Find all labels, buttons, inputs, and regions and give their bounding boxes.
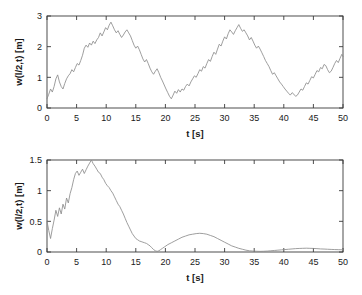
bottom-plot-panel: 05101520253035404550 00.511.5 t [s] w(l/… xyxy=(0,147,362,295)
top-plot-x-axis-label: t [s] xyxy=(186,128,203,139)
x-tick-label: 0 xyxy=(44,113,49,123)
bottom-plot-y-axis-label: w(l/2,t) [m] xyxy=(13,182,24,231)
y-tick-label: 1.5 xyxy=(29,155,42,165)
x-tick-label: 0 xyxy=(44,257,49,267)
y-tick-label: 0.5 xyxy=(29,217,42,227)
y-tick-label: 0 xyxy=(37,103,42,113)
x-tick-label: 40 xyxy=(279,113,289,123)
top-plot-panel: 05101520253035404550 0123 t [s] w(l/2,t)… xyxy=(0,0,362,148)
x-tick-label: 30 xyxy=(220,113,230,123)
y-tick-label: 3 xyxy=(37,11,42,21)
x-tick-label: 10 xyxy=(101,257,111,267)
x-tick-label: 40 xyxy=(279,257,289,267)
x-tick-label: 15 xyxy=(131,113,141,123)
x-tick-label: 35 xyxy=(249,257,259,267)
y-tick-label: 2 xyxy=(37,42,42,52)
bottom-plot-x-axis-label: t [s] xyxy=(186,272,203,283)
x-tick-label: 5 xyxy=(74,257,79,267)
x-tick-label: 15 xyxy=(131,257,141,267)
top-plot-y-axis-label: w(l/2,t) [m] xyxy=(13,38,24,87)
y-tick-label: 0 xyxy=(37,247,42,257)
top-plot-group: 05101520253035404550 0123 t [s] w(l/2,t)… xyxy=(0,0,362,148)
bottom-plot-group: 05101520253035404550 00.511.5 t [s] w(l/… xyxy=(0,147,362,295)
x-tick-label: 50 xyxy=(338,257,348,267)
top-plot-svg: 05101520253035404550 0123 t [s] w(l/2,t)… xyxy=(0,0,362,148)
x-tick-label: 20 xyxy=(160,257,170,267)
figure-container: 05101520253035404550 0123 t [s] w(l/2,t)… xyxy=(0,0,362,295)
x-tick-label: 20 xyxy=(160,113,170,123)
x-tick-label: 30 xyxy=(220,257,230,267)
y-tick-label: 1 xyxy=(37,73,42,83)
x-tick-label: 50 xyxy=(338,113,348,123)
bottom-plot-svg: 05101520253035404550 00.511.5 t [s] w(l/… xyxy=(0,147,362,295)
x-tick-label: 25 xyxy=(190,113,200,123)
x-tick-label: 45 xyxy=(308,113,318,123)
x-tick-label: 5 xyxy=(74,113,79,123)
x-tick-label: 45 xyxy=(308,257,318,267)
x-tick-label: 10 xyxy=(101,113,111,123)
x-tick-label: 25 xyxy=(190,257,200,267)
x-tick-label: 35 xyxy=(249,113,259,123)
top-plot-background xyxy=(0,0,362,148)
y-tick-label: 1 xyxy=(37,186,42,196)
